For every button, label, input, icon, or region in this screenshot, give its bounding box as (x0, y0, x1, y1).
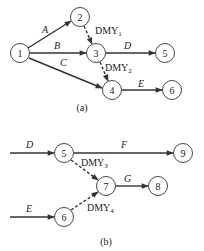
node-8: 8 (149, 177, 168, 196)
network-diagrams: A B C DMY1 D DMY2 E 1 2 3 4 5 6 (a) D E … (0, 0, 204, 251)
node-3: 3 (87, 44, 106, 63)
edge-label-c: C (60, 57, 67, 68)
svg-text:5: 5 (163, 48, 168, 59)
svg-text:6: 6 (170, 85, 175, 96)
svg-text:4: 4 (110, 85, 115, 96)
dummy-edge-2-3 (84, 26, 92, 44)
node-1: 1 (11, 44, 30, 63)
edge-label-dmy1: DMY1 (95, 25, 122, 38)
edge-label-dmy3: DMY3 (81, 157, 108, 170)
svg-text:8: 8 (156, 181, 161, 192)
svg-text:7: 7 (104, 181, 109, 192)
svg-text:3: 3 (94, 48, 99, 59)
edge-label-e: E (137, 78, 144, 89)
edge-label-d: D (123, 40, 132, 51)
svg-text:9: 9 (181, 148, 186, 159)
node-5-b: 5 (55, 144, 74, 163)
diagram-b: D E F DMY3 DMY4 G 5 6 7 8 9 (b) (10, 139, 193, 248)
edge-label-d-b: D (25, 139, 34, 150)
node-6-b: 6 (55, 208, 74, 227)
edge-label-dmy2: DMY2 (105, 62, 132, 75)
edge-label-f: F (120, 139, 128, 150)
node-7: 7 (97, 177, 116, 196)
svg-text:2: 2 (78, 12, 83, 23)
svg-text:5: 5 (62, 148, 67, 159)
diagram-a: A B C DMY1 D DMY2 E 1 2 3 4 5 6 (a) (11, 8, 182, 115)
edge-label-a: A (41, 24, 49, 35)
svg-text:6: 6 (62, 212, 67, 223)
caption-a: (a) (76, 102, 87, 114)
node-2: 2 (71, 8, 90, 27)
edge-label-g: G (124, 173, 131, 184)
caption-b: (b) (100, 236, 112, 248)
edge-a-1-2 (28, 21, 71, 48)
edge-label-e-b: E (25, 203, 32, 214)
node-5: 5 (156, 44, 175, 63)
edge-label-dmy4: DMY4 (87, 202, 114, 215)
svg-text:1: 1 (18, 48, 23, 59)
node-4: 4 (103, 81, 122, 100)
node-6: 6 (163, 81, 182, 100)
node-9: 9 (174, 144, 193, 163)
edge-label-b: B (54, 40, 60, 51)
